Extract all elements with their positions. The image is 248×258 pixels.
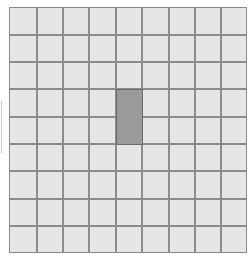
grid-row-line <box>10 34 246 36</box>
grid-row-line <box>10 225 246 227</box>
left-edge-mark <box>1 101 2 153</box>
grid-column-line <box>62 8 64 252</box>
grid-row-line <box>10 61 246 63</box>
grid-row-line <box>10 170 246 172</box>
grid-row-line <box>10 198 246 200</box>
grid-column-line <box>88 8 90 252</box>
tile-grid[interactable] <box>9 7 247 253</box>
selected-cell[interactable] <box>116 89 143 145</box>
grid-column-line <box>168 8 170 252</box>
grid-column-line <box>36 8 38 252</box>
grid-column-line <box>194 8 196 252</box>
grid-column-line <box>220 8 222 252</box>
